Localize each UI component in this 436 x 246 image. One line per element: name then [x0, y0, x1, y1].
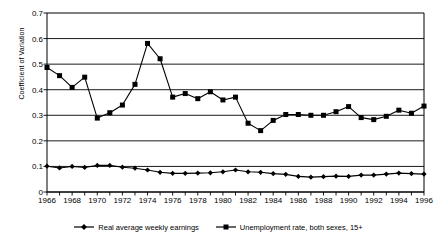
data-point-marker-square — [120, 103, 125, 108]
x-axis-tick-label: 1966 — [38, 196, 56, 205]
data-point-marker-square — [384, 114, 389, 119]
data-point-marker-square — [183, 91, 188, 96]
x-axis-tick-label: 1972 — [113, 196, 131, 205]
data-point-marker-square — [422, 104, 427, 109]
legend-label: Unemployment rate, both sexes, 15+ — [240, 223, 363, 232]
data-point-marker-square — [334, 109, 339, 114]
chart-legend: Real average weekly earningsUnemployment… — [0, 222, 436, 232]
x-axis-tick-label: 1988 — [315, 196, 333, 205]
y-axis-tick-label: 0.5 — [32, 60, 43, 69]
data-point-marker-square — [308, 113, 313, 118]
data-point-marker-square — [158, 56, 163, 61]
data-point-marker-square — [396, 108, 401, 113]
data-point-marker-square — [296, 112, 301, 117]
data-point-marker-square — [95, 116, 100, 121]
data-point-marker-square — [107, 110, 112, 115]
y-axis-tick-label: 0.3 — [32, 111, 43, 120]
x-axis-tick-label: 1990 — [340, 196, 358, 205]
data-point-marker-square — [283, 112, 288, 117]
data-point-marker-square — [70, 85, 75, 90]
x-axis-tick-label: 1978 — [189, 196, 207, 205]
legend-label: Real average weekly earnings — [98, 223, 198, 232]
plot-area — [0, 0, 436, 246]
data-point-marker-square — [145, 41, 150, 46]
data-point-marker-square — [170, 95, 175, 100]
x-axis-tick-label: 1982 — [239, 196, 257, 205]
data-point-marker-square — [346, 104, 351, 109]
legend-item[interactable]: Real average weekly earnings — [73, 222, 198, 232]
data-point-marker-square — [195, 96, 200, 101]
data-point-marker-square — [233, 95, 238, 100]
y-axis-title: Coefficient of Variation — [18, 0, 25, 129]
x-axis-tick-label: 1976 — [164, 196, 182, 205]
chart-container: 00.10.20.30.40.50.60.7 Coefficient of Va… — [0, 0, 436, 246]
x-axis-tick-label: 1968 — [63, 196, 81, 205]
data-point-marker-square — [409, 111, 414, 116]
data-point-marker-square — [359, 115, 364, 120]
y-axis-tick-label: 0.6 — [32, 34, 43, 43]
data-point-marker-square — [271, 118, 276, 123]
x-axis-tick-label: 1974 — [139, 196, 157, 205]
x-axis-tick-label: 1980 — [214, 196, 232, 205]
legend-item[interactable]: Unemployment rate, both sexes, 15+ — [215, 222, 363, 232]
data-point-marker-square — [321, 113, 326, 118]
x-axis-tick-label: 1994 — [390, 196, 408, 205]
data-point-marker-square — [371, 117, 376, 122]
x-axis-tick-label: 1970 — [88, 196, 106, 205]
x-axis-tick-label: 1986 — [289, 196, 307, 205]
y-axis-tick-label: 0.2 — [32, 136, 43, 145]
data-point-marker-square — [132, 82, 137, 87]
legend-marker-square-icon — [215, 222, 237, 232]
y-axis-tick-label: 0.1 — [32, 162, 43, 171]
data-point-marker-square — [246, 121, 251, 126]
data-point-marker-square — [57, 73, 62, 78]
data-point-marker-square — [220, 97, 225, 102]
data-point-marker-square — [45, 65, 50, 70]
x-axis-tick-label: 1996 — [415, 196, 433, 205]
data-point-marker-square — [82, 75, 87, 80]
data-point-marker-square — [208, 89, 213, 94]
x-axis-tick-label: 1992 — [365, 196, 383, 205]
legend-marker-diamond-icon — [73, 222, 95, 232]
y-axis-tick-label: 0.4 — [32, 85, 43, 94]
y-axis-tick-label: 0.7 — [32, 9, 43, 18]
data-point-marker-square — [258, 128, 263, 133]
x-axis-tick-label: 1984 — [264, 196, 282, 205]
